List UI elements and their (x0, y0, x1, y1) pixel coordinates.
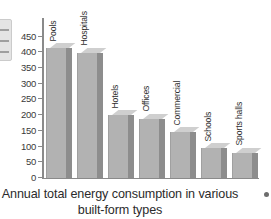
y-axis-tick-label: 350 (8, 63, 36, 73)
bar-side-face (189, 132, 196, 178)
bar-front-face (108, 115, 128, 178)
bar-front-face (201, 148, 221, 178)
bar-side-face (65, 48, 72, 178)
bar-front-face (139, 119, 159, 178)
bar-label-hotels: Hotels (111, 84, 120, 108)
bar-label-sports-halls: Sports halls (235, 102, 244, 146)
bar-hospitals (77, 53, 96, 178)
bar-hotels (108, 115, 127, 178)
y-axis-tick-label: 100 (8, 142, 36, 152)
bar-label-offices: Offices (142, 86, 151, 112)
bar-front-face (46, 48, 66, 178)
bar-side-face (96, 53, 103, 178)
figure-caption: Annual total energy consumption in vario… (0, 186, 240, 218)
bar-label-schools: Schools (204, 111, 213, 141)
bar-schools (201, 148, 220, 178)
bar-chart: 050100150200250300350400450 PoolsHospita… (0, 0, 271, 186)
y-axis-tick-label: 200 (8, 110, 36, 120)
right-edge-ink-mark (264, 192, 269, 197)
caption-line-1: Annual total energy consumption in vario… (0, 186, 240, 202)
y-axis-tick-label: 300 (8, 79, 36, 89)
caption-line-2: built-form types (0, 202, 240, 218)
y-axis-tick-label: 150 (8, 126, 36, 136)
bar-side-face (127, 115, 134, 178)
bar-front-face (170, 132, 190, 178)
bar-label-pools: Pools (49, 20, 58, 41)
bar-sports-halls (232, 153, 251, 178)
y-axis-tick-label: 400 (8, 47, 36, 57)
y-axis-tick-label: 450 (8, 32, 36, 42)
bar-label-commercial: Commercial (173, 81, 182, 126)
bar-label-hospitals: Hospitals (80, 11, 89, 45)
bar-side-face (220, 148, 227, 178)
bar-side-face (251, 153, 258, 178)
bar-front-face (77, 53, 97, 178)
bar-pools (46, 48, 65, 178)
y-axis-tick-label: 250 (8, 94, 36, 104)
y-axis-tick-label: 0 (8, 173, 36, 183)
bar-group: PoolsHospitalsHotelsOfficesCommercialSch… (42, 18, 259, 178)
bar-commercial (170, 132, 189, 178)
y-axis-tick-label: 50 (8, 157, 36, 167)
bar-side-face (158, 119, 165, 178)
bar-front-face (232, 153, 252, 178)
bar-offices (139, 119, 158, 178)
